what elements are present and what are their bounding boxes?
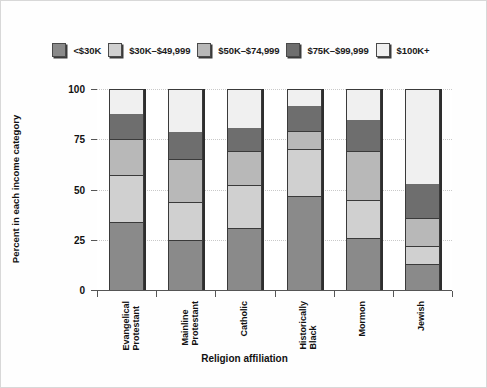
plot-area [97, 89, 452, 290]
legend-swatch-icon [197, 43, 211, 57]
legend-item[interactable]: <$30K [52, 43, 101, 57]
bar-segment[interactable] [347, 152, 380, 200]
bar-segment[interactable] [228, 229, 261, 291]
bar-segment[interactable] [169, 241, 202, 291]
bar-segment[interactable] [406, 219, 439, 247]
bar-segment[interactable] [228, 152, 261, 186]
x-tick [275, 291, 276, 297]
x-tick [452, 291, 453, 297]
x-axis-title: Religion affiliation [1, 353, 487, 364]
legend-label: $50K–$74,999 [218, 45, 279, 56]
bar-segment[interactable] [228, 90, 261, 128]
legend-item[interactable]: $100K+ [376, 43, 430, 57]
bar-segment[interactable] [110, 90, 143, 114]
legend-swatch-icon [286, 43, 300, 57]
bar-segment[interactable] [288, 150, 321, 196]
bar-segment[interactable] [110, 223, 143, 291]
bar-segment[interactable] [406, 90, 439, 184]
x-tick [97, 291, 98, 297]
bar-segment[interactable] [406, 184, 439, 218]
bar-stack[interactable] [227, 89, 262, 290]
bar-segment[interactable] [347, 120, 380, 152]
bar-segment[interactable] [288, 197, 321, 291]
bar-segment[interactable] [288, 132, 321, 150]
y-tick-label: 100 [68, 84, 85, 95]
bar-stack[interactable] [287, 89, 322, 290]
chart-legend: <$30K$30K–$49,999$50K–$74,999$75K–$99,99… [1, 39, 487, 61]
x-tick-label: Mormon [357, 301, 367, 337]
gridline [97, 89, 452, 90]
x-tick-label: Jewish [416, 301, 426, 331]
y-axis-title: Percent in each income category [10, 115, 21, 263]
x-tick [215, 291, 216, 297]
bar-stack[interactable] [346, 89, 381, 290]
bar-stack[interactable] [109, 89, 144, 290]
gridline [97, 190, 452, 191]
y-tick-label: 75 [74, 134, 85, 145]
y-tick-label: 50 [74, 184, 85, 195]
x-tick-label: Evangelical Protestant [121, 301, 141, 351]
bar-segment[interactable] [169, 160, 202, 202]
bar-segment[interactable] [288, 90, 321, 106]
y-tick-label: 0 [79, 285, 85, 296]
bar-segment[interactable] [347, 239, 380, 291]
legend-label: $100K+ [397, 45, 430, 56]
bar-segment[interactable] [110, 176, 143, 222]
legend-label: <$30K [73, 45, 101, 56]
y-tick-label: 25 [74, 234, 85, 245]
bar-segment[interactable] [347, 201, 380, 239]
gridline [97, 240, 452, 241]
gridline [97, 139, 452, 140]
bar-segment[interactable] [110, 114, 143, 140]
bar-stack[interactable] [168, 89, 203, 290]
bar-segment[interactable] [406, 247, 439, 265]
bar-stack[interactable] [405, 89, 440, 290]
legend-item[interactable]: $75K–$99,999 [286, 43, 368, 57]
legend-swatch-icon [108, 43, 122, 57]
bar-segment[interactable] [288, 106, 321, 132]
bar-segment[interactable] [169, 203, 202, 241]
legend-label: $75K–$99,999 [307, 45, 368, 56]
legend-item[interactable]: $50K–$74,999 [197, 43, 279, 57]
legend-swatch-icon [52, 43, 66, 57]
bar-segment[interactable] [228, 186, 261, 228]
x-tick [156, 291, 157, 297]
x-axis [91, 290, 452, 297]
x-tick [334, 291, 335, 297]
legend-item[interactable]: $30K–$49,999 [108, 43, 190, 57]
legend-swatch-icon [376, 43, 390, 57]
bar-segment[interactable] [169, 132, 202, 160]
bar-segment[interactable] [169, 90, 202, 132]
x-tick-label: Mainline Protestant [180, 301, 200, 346]
x-tick [393, 291, 394, 297]
legend-label: $30K–$49,999 [129, 45, 190, 56]
bar-segment[interactable] [110, 140, 143, 176]
bar-segment[interactable] [228, 128, 261, 152]
x-tick-label: Historically Black [298, 301, 318, 350]
bar-segment[interactable] [347, 90, 380, 120]
chart-figure: <$30K$30K–$49,999$50K–$74,999$75K–$99,99… [0, 0, 487, 388]
bar-segment[interactable] [406, 265, 439, 291]
x-tick-label: Catholic [239, 301, 249, 337]
